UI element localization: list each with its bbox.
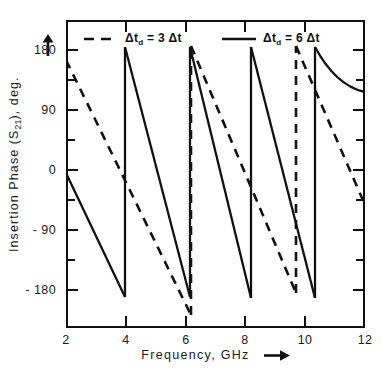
chart-figure: 180 90 0 - 90 - 180 2 4 6 8 10 12 Insert… [0, 0, 381, 380]
xtick-label-2: 2 [62, 333, 69, 347]
x-axis-title-row: Frequency, GHz [66, 348, 365, 362]
y-axis-title-tail: ), deg. [7, 76, 21, 119]
legend-item-solid: Δtd = 6 Δt [222, 31, 320, 47]
y-major-ticks [66, 50, 78, 290]
x-major-ticks [126, 316, 305, 328]
x-axis-title: Frequency, GHz [141, 348, 249, 362]
legend-dashed-label: Δtd = 3 Δt [125, 31, 182, 47]
y-ticks-right [353, 50, 365, 290]
legend-solid-subscript: d [276, 38, 281, 47]
legend-solid-value: = 6 Δt [285, 31, 320, 45]
legend-dashed-subscript: d [138, 38, 143, 47]
y-axis-title-subscript: 21 [13, 119, 23, 129]
xtick-label-12: 12 [358, 333, 373, 347]
y-axis-arrow-icon [41, 34, 55, 56]
x-axis-arrow-icon [264, 349, 290, 362]
legend-dashed-delta: Δt [125, 31, 138, 45]
y-axis-title-main: Insertion Phase (S [7, 129, 21, 252]
legend-dashed-value: = 3 Δt [147, 31, 182, 45]
legend-solid-swatch-icon [222, 34, 256, 44]
legend-dashed-swatch-icon [84, 34, 118, 44]
series-solid-6dt [66, 47, 365, 298]
xtick-label-10: 10 [298, 333, 313, 347]
chart-canvas [0, 0, 381, 380]
xtick-label-4: 4 [122, 333, 129, 347]
xtick-label-6: 6 [182, 333, 189, 347]
legend-solid-delta: Δt [263, 31, 276, 45]
xtick-label-8: 8 [241, 333, 248, 347]
legend-item-dashed: Δtd = 3 Δt [84, 31, 182, 47]
series-dashed-3dt [66, 46, 365, 315]
legend-solid-label: Δtd = 6 Δt [263, 31, 320, 47]
y-axis-title: Insertion Phase (S21), deg. [2, 0, 28, 328]
